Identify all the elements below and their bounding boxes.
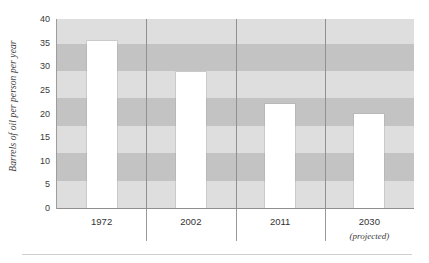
x-axis-category: 2011 xyxy=(236,216,325,228)
category-separator-extension xyxy=(146,19,147,241)
x-axis-category: 1972 xyxy=(57,216,146,228)
bar-2002[interactable] xyxy=(176,72,206,208)
y-axis-tick-label: 35 xyxy=(40,38,50,48)
x-axis-category-name: 1972 xyxy=(57,216,146,228)
y-axis-tick-label: 10 xyxy=(40,156,50,166)
y-axis-tick-label: 5 xyxy=(45,179,50,189)
x-axis-category: 2002 xyxy=(146,216,235,228)
y-axis-tick-label: 15 xyxy=(40,132,50,142)
y-axis-tick-label: 25 xyxy=(40,85,50,95)
y-axis-tick-labels: 0510152025303540 xyxy=(26,14,54,208)
x-axis-category-name: 2002 xyxy=(146,216,235,228)
y-axis-line xyxy=(56,19,57,209)
y-axis-title-text: Barrels of oil per person per year xyxy=(8,40,18,171)
bar-2011[interactable] xyxy=(265,104,295,208)
y-axis-tick-label: 30 xyxy=(40,61,50,71)
bar-1972[interactable] xyxy=(87,41,117,208)
x-axis-category: 2030(projected) xyxy=(325,216,414,242)
x-axis-category-name: 2011 xyxy=(236,216,325,228)
x-axis-category-name: 2030 xyxy=(325,216,414,228)
y-axis-tick-label: 20 xyxy=(40,109,50,119)
y-axis-tick-label: 40 xyxy=(40,14,50,24)
category-separator-extension xyxy=(236,19,237,241)
y-axis-title: Barrels of oil per person per year xyxy=(0,0,26,212)
category-separator-extension xyxy=(325,19,326,241)
bar-2030[interactable] xyxy=(354,114,384,209)
footer-rule xyxy=(22,254,412,255)
x-axis-category-labels: 1972200220112030(projected) xyxy=(57,209,414,253)
x-axis-category-note: (projected) xyxy=(325,230,414,242)
bar-chart-figure: Barrels of oil per person per year 05101… xyxy=(0,0,429,263)
y-axis-tick-label: 0 xyxy=(45,203,50,213)
